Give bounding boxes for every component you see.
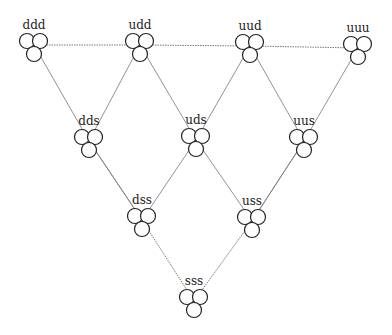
edges-layer bbox=[34, 45, 358, 301]
node-label: dds bbox=[78, 114, 100, 128]
node-uud: uud bbox=[236, 19, 264, 63]
nodes-layer: dddudduuduuuddsudsuusdssusssss bbox=[20, 18, 372, 318]
quark-circle-icon bbox=[82, 143, 97, 158]
quark-circle-icon bbox=[133, 47, 148, 62]
node-dss: dss bbox=[128, 193, 156, 237]
node-label: uuu bbox=[346, 21, 369, 35]
edge-uds-dss bbox=[142, 140, 196, 220]
node-uss: uss bbox=[238, 194, 266, 238]
quark-circle-icon bbox=[135, 222, 150, 237]
node-label: uus bbox=[293, 114, 315, 128]
baryon-decuplet-diagram: dddudduuduuuddsudsuusdssusssss bbox=[0, 0, 392, 335]
quark-circle-icon bbox=[243, 48, 258, 63]
quark-circle-icon bbox=[189, 142, 204, 157]
node-uus: uus bbox=[290, 114, 318, 158]
node-label: udd bbox=[128, 18, 151, 32]
edge-uus-uss bbox=[252, 141, 304, 221]
quark-circle-icon bbox=[27, 47, 42, 62]
node-label: dss bbox=[132, 193, 152, 207]
node-sss: sss bbox=[180, 274, 208, 318]
edge-udd-uud bbox=[140, 45, 250, 46]
edge-dss-sss bbox=[142, 220, 194, 301]
node-label: ddd bbox=[22, 18, 45, 32]
node-label: uds bbox=[185, 113, 207, 127]
edge-uud-uuu bbox=[250, 46, 358, 48]
edge-uss-sss bbox=[194, 221, 252, 301]
node-uuu: uuu bbox=[344, 21, 372, 65]
node-label: sss bbox=[185, 274, 203, 288]
node-uds: uds bbox=[182, 113, 210, 157]
quark-circle-icon bbox=[351, 50, 366, 65]
quark-circle-icon bbox=[297, 143, 312, 158]
quark-circle-icon bbox=[245, 223, 260, 238]
quark-circle-icon bbox=[187, 303, 202, 318]
node-label: uss bbox=[242, 194, 262, 208]
node-ddd: ddd bbox=[20, 18, 48, 62]
node-udd: udd bbox=[126, 18, 154, 62]
node-label: uud bbox=[238, 19, 261, 33]
edge-uds-uss bbox=[196, 140, 252, 221]
node-dds: dds bbox=[75, 114, 103, 158]
